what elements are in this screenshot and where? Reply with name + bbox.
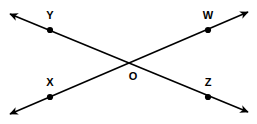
point-label-x: X [46, 77, 53, 88]
point-label-o: O [129, 71, 138, 82]
point-dot-x [47, 94, 53, 100]
point-dot-w [205, 27, 211, 33]
geometry-canvas [0, 0, 257, 124]
point-label-y: Y [46, 10, 53, 21]
point-label-z: Z [205, 77, 212, 88]
geometry-figure: YWXZO [0, 0, 257, 124]
point-label-w: W [203, 10, 213, 21]
point-dot-z [205, 94, 211, 100]
point-dot-y [47, 27, 53, 33]
